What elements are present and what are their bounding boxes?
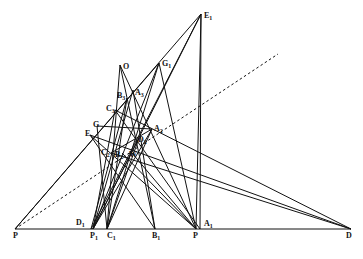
segment-O-P2 xyxy=(120,65,196,229)
construction-lines xyxy=(15,14,351,229)
segment-B2-P2 xyxy=(122,153,196,229)
point-label-G: G xyxy=(93,120,99,129)
point-label-C3: C3 xyxy=(106,104,115,114)
point-label-O: O xyxy=(123,62,129,71)
point-label-P2: P xyxy=(193,231,198,240)
point-label-B3: B3 xyxy=(117,91,125,101)
point-label-D: D xyxy=(346,231,352,240)
point-label-D2: D2 xyxy=(138,135,147,145)
point-label-W: W xyxy=(129,150,137,159)
point-label-E: E xyxy=(85,129,90,138)
segment-G1-P2 xyxy=(159,63,196,229)
point-label-D1: D1 xyxy=(76,218,85,228)
point-label-C2: C2 xyxy=(101,148,110,158)
point-label-A3: A3 xyxy=(135,88,144,98)
point-label-P: P xyxy=(13,231,18,240)
point-label-G1: G1 xyxy=(162,59,171,69)
point-label-P1: P1 xyxy=(90,231,98,241)
point-label-E1: E1 xyxy=(204,11,212,21)
point-labels: E1G1OB3A3C3GEA2D2C2B2WPD1P1C1B1PA1D xyxy=(13,11,352,241)
point-label-B2: B2 xyxy=(115,150,123,160)
point-label-A1: A1 xyxy=(204,219,213,229)
point-label-A2: A2 xyxy=(154,124,163,134)
geometric-diagram: E1G1OB3A3C3GEA2D2C2B2WPD1P1C1B1PA1D xyxy=(0,0,363,259)
point-label-B1: B1 xyxy=(152,231,160,241)
point-label-C1: C1 xyxy=(107,231,116,241)
segment-C3-D xyxy=(115,110,351,229)
segment-W-P2 xyxy=(132,153,196,229)
